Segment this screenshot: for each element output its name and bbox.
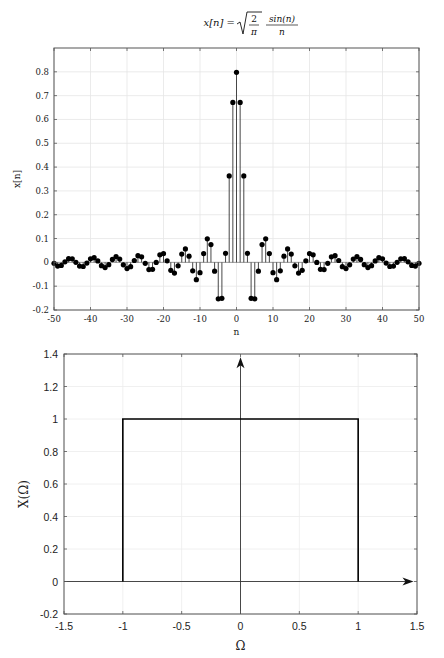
stem-marker	[154, 260, 159, 265]
stem-marker	[172, 271, 177, 276]
stem-marker	[285, 246, 290, 251]
y-tick-label: 0.4	[43, 511, 58, 523]
y-tick-label: 0.5	[35, 138, 49, 148]
stem-marker	[292, 263, 297, 268]
stem-marker	[238, 100, 243, 105]
y-axis-label: x[n]	[12, 170, 22, 188]
x-tick-label: 20	[304, 314, 315, 324]
sqrt-numerator: 2	[251, 14, 257, 24]
stem-marker	[212, 269, 217, 274]
y-tick-label: 0.6	[43, 478, 58, 490]
stem-marker	[84, 260, 89, 265]
stem-marker	[289, 252, 294, 257]
stem-marker	[117, 256, 122, 261]
y-tick-label: 0	[44, 257, 49, 267]
y-tick-label: 0.3	[35, 186, 49, 196]
stem-marker	[73, 260, 78, 265]
stem-marker	[179, 252, 184, 257]
y-tick-label: 1.2	[43, 381, 58, 393]
title-lhs: x[n] =	[204, 17, 235, 28]
stem-marker	[230, 100, 235, 105]
stem-marker	[267, 251, 272, 256]
x-axis-label: n	[234, 327, 240, 337]
stem-marker	[369, 263, 374, 268]
x-tick-label: 50	[414, 314, 425, 324]
stem-marker	[161, 251, 166, 256]
y-tick-label: 0.1	[35, 234, 49, 244]
stem-marker	[274, 277, 279, 282]
x-tick-label: -40	[84, 314, 98, 324]
y-tick-label: 0.4	[35, 162, 49, 172]
stem-marker	[190, 268, 195, 273]
stem-marker	[300, 268, 305, 273]
stem-marker	[336, 258, 341, 263]
stem-marker	[128, 264, 133, 269]
spectrum-plot: -1.5-1-0.500.511.5-0.200.20.40.60.811.21…	[17, 348, 424, 653]
stem-marker	[347, 262, 352, 267]
y-tick-label: 0.7	[35, 91, 49, 101]
stem-marker	[332, 253, 337, 258]
stem-marker	[186, 254, 191, 259]
y-tick-label: 0.8	[43, 446, 58, 458]
x-tick-label: -50	[47, 314, 61, 324]
stem-marker	[343, 266, 348, 271]
stem-marker	[197, 270, 202, 275]
stem-marker	[322, 267, 327, 272]
stem-marker	[270, 270, 275, 275]
stem-marker	[219, 296, 224, 301]
x-tick-label: -1.5	[55, 620, 73, 632]
stem-marker	[223, 251, 228, 256]
stem-marker	[143, 261, 148, 266]
stem-marker	[121, 262, 126, 267]
stem-marker	[252, 296, 257, 301]
x-tick-label: -0.5	[173, 620, 191, 632]
stem-marker	[132, 258, 137, 263]
sqrt-symbol	[237, 12, 262, 34]
stem-marker	[208, 242, 213, 247]
stem-marker	[241, 173, 246, 178]
stem-marker	[183, 246, 188, 251]
sqrt-denominator: π	[250, 27, 258, 37]
stem-marker	[263, 236, 268, 241]
x-tick-label: -1	[118, 620, 127, 632]
figure: -50-40-30-20-1001020304050-0.2-0.100.10.…	[0, 0, 444, 658]
stem-marker	[259, 242, 264, 247]
stem-marker	[311, 252, 316, 257]
y-tick-label: 0.2	[35, 210, 49, 220]
x-tick-label: -30	[120, 314, 134, 324]
y-tick-label: -0.1	[33, 281, 49, 291]
x-tick-label: -20	[157, 314, 171, 324]
stem-marker	[165, 258, 170, 263]
x-tick-label: 40	[377, 314, 388, 324]
x-tick-label: 1.5	[410, 620, 425, 632]
stem-marker	[201, 251, 206, 256]
y-tick-label: 0.8	[35, 67, 49, 77]
y-axis-label: X(Ω)	[17, 480, 31, 508]
stem-marker	[150, 267, 155, 272]
x-tick-label: 30	[341, 314, 352, 324]
stem-marker	[194, 277, 199, 282]
stem-marker	[278, 268, 283, 273]
chart-title: x[n] =2πsin(n)n	[204, 12, 298, 37]
x-tick-label: -10	[193, 314, 207, 324]
y-tick-label: 0.2	[43, 543, 58, 555]
stem-marker	[358, 257, 363, 262]
x-axis-label: Ω	[236, 639, 246, 653]
x-tick-label: 0	[234, 314, 239, 324]
stem-marker	[95, 258, 100, 263]
stem-plot: -50-40-30-20-1001020304050-0.2-0.100.10.…	[12, 12, 424, 337]
stem-marker	[256, 269, 261, 274]
stem-marker	[314, 260, 319, 265]
y-tick-label: 1	[52, 413, 58, 425]
x-tick-label: 1	[355, 620, 361, 632]
fraction-denominator: n	[279, 27, 285, 37]
y-tick-label: 0.6	[35, 114, 49, 124]
stem-marker	[281, 254, 286, 259]
y-tick-label: -0.2	[33, 305, 49, 315]
stem-marker	[227, 173, 232, 178]
x-tick-label: 10	[268, 314, 279, 324]
stem-marker	[245, 251, 250, 256]
y-tick-label: 1.4	[43, 348, 58, 360]
stem-marker	[380, 256, 385, 261]
stem-marker	[139, 254, 144, 259]
